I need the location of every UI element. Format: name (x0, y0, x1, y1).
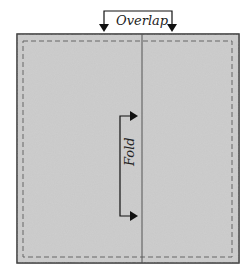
overlap-arrow-right-icon (167, 24, 177, 32)
fabric-fold-diagram: Overlap Fold (0, 0, 248, 269)
overlap-label: Overlap (116, 13, 169, 28)
fold-label: Fold (122, 137, 137, 167)
overlap-arrow-left-icon (99, 24, 109, 32)
